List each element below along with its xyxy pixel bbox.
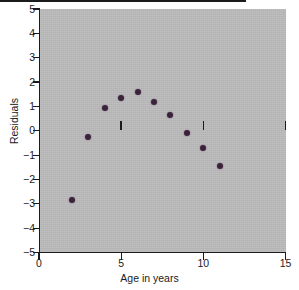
paper-grain-overlay	[40, 9, 286, 252]
y-tick-label: −4	[9, 223, 35, 234]
residual-plot-figure: 543210−1−2−3−4−5 051015 Age in years Res…	[0, 0, 299, 290]
plot-panel	[40, 9, 286, 252]
y-tick-label: 5	[9, 4, 35, 15]
x-tick-label: 10	[191, 258, 215, 269]
x-tick-label: 0	[27, 258, 51, 269]
y-tick-label: −5	[9, 247, 35, 258]
x-axis-line	[39, 252, 286, 253]
y-tick-label: 3	[9, 52, 35, 63]
scatter-point	[118, 95, 124, 101]
scatter-point	[217, 163, 223, 169]
x-axis-title: Age in years	[0, 272, 299, 284]
scatter-point	[69, 197, 75, 203]
zero-line-tick	[285, 121, 286, 130]
x-tick-label: 15	[274, 258, 298, 269]
zero-reference-line	[0, 0, 246, 2]
zero-line-tick	[203, 121, 204, 130]
y-axis-title: Residuals	[8, 81, 20, 161]
y-tick-label: −3	[9, 198, 35, 209]
y-tick-label: −2	[9, 174, 35, 185]
scatter-point	[151, 99, 157, 105]
x-tick-label: 5	[109, 258, 133, 269]
y-tick-label: 4	[9, 28, 35, 39]
zero-line-tick	[120, 121, 121, 130]
scatter-point	[135, 89, 141, 95]
